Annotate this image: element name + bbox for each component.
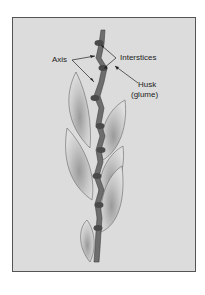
node (95, 202, 104, 208)
node (91, 95, 100, 101)
node (95, 40, 104, 46)
node (93, 173, 102, 179)
label-husk: Husk (138, 80, 157, 89)
husk-bottom-left (81, 220, 95, 262)
node (96, 123, 105, 129)
label-interstices: Interstices (120, 53, 156, 62)
label-glume: (glume) (131, 90, 158, 99)
node (94, 225, 103, 231)
label-axis: Axis (52, 55, 67, 64)
node (97, 147, 106, 153)
spikelet-diagram: Axis Interstices Husk (glume) (0, 0, 205, 295)
